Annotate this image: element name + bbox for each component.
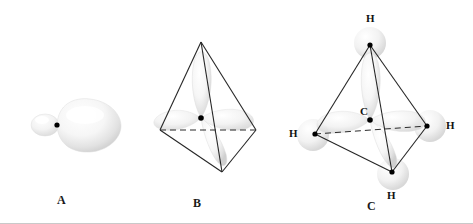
nucleus-dot-a (54, 122, 59, 127)
panel-c-methane (297, 27, 446, 190)
panel-b-tetrahedron (154, 42, 256, 172)
nucleus-dot-b (198, 115, 204, 121)
bottom-divider (0, 223, 473, 224)
edge-c-right-front (392, 126, 427, 172)
carbon-nucleus-dot (367, 117, 373, 123)
sp3-back-lobe-highlight (35, 116, 49, 124)
edge-right-front (222, 130, 256, 172)
hydrogen-nucleus-right (424, 123, 429, 128)
panel-label-c: C (367, 200, 376, 212)
chemistry-figure: H H H H C A B C (0, 0, 473, 224)
hydrogen-nucleus-left (312, 131, 317, 136)
atom-label-hydrogen-right: H (446, 120, 455, 131)
figure-graphics (0, 0, 473, 224)
atom-label-hydrogen-top: H (366, 13, 375, 24)
hydrogen-nucleus-top (367, 42, 372, 47)
sp3-front-lobe-highlight (66, 106, 104, 124)
atom-label-hydrogen-left: H (289, 128, 298, 139)
panel-label-b: B (193, 197, 201, 209)
panel-label-a: A (57, 194, 66, 206)
atom-label-carbon-center: C (360, 106, 368, 117)
hydrogen-nucleus-bottom (389, 169, 394, 174)
atom-label-hydrogen-bottom: H (387, 190, 396, 201)
panel-a-orbital (31, 99, 121, 152)
